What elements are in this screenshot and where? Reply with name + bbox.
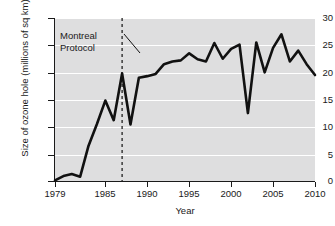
annotation-leader-line	[124, 34, 140, 53]
ozone-hole-data-line	[55, 34, 315, 180]
